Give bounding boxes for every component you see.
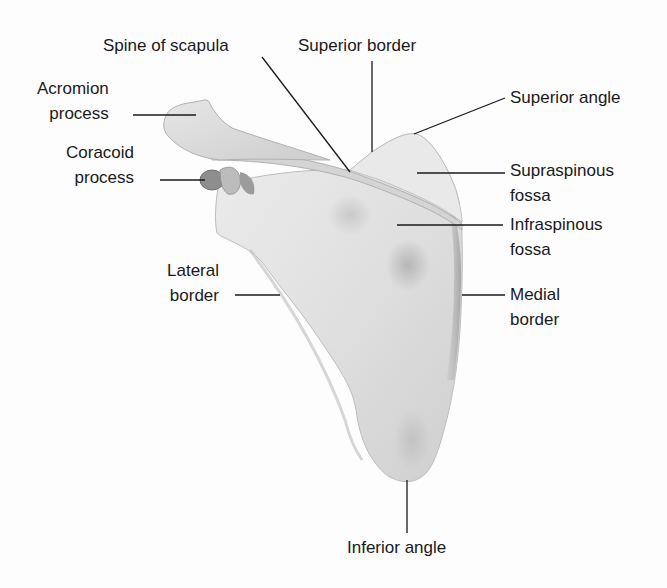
label-coracoid-process: Coracoid process	[66, 140, 134, 190]
label-medial-border: Medial border	[510, 282, 560, 332]
label-lateral-border: Lateral border	[167, 258, 219, 308]
label-supraspinous-fossa: Supraspinous fossa	[510, 158, 614, 208]
label-acromion-process: Acromion process	[37, 76, 109, 126]
scapula-diagram: Spine of scapula Superior border Acromio…	[0, 0, 667, 588]
label-superior-angle: Superior angle	[510, 85, 621, 110]
label-superior-border: Superior border	[298, 33, 416, 58]
label-inferior-angle: Inferior angle	[347, 535, 446, 560]
leader-line-superior-angle	[414, 98, 505, 134]
label-spine-of-scapula: Spine of scapula	[103, 33, 229, 58]
acromion-process-shape	[164, 100, 330, 160]
label-infraspinous-fossa: Infraspinous fossa	[510, 212, 603, 262]
